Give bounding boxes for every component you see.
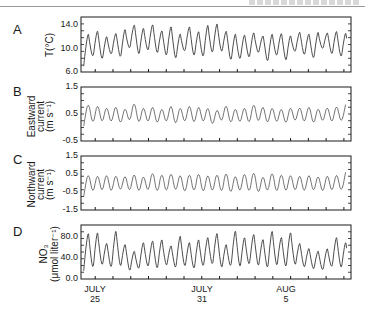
panel-c-plot xyxy=(81,156,351,210)
panel-d-plot xyxy=(81,225,351,279)
panel-b-series xyxy=(84,104,346,126)
panel-b-plot xyxy=(81,87,351,141)
chart-plots xyxy=(0,0,365,319)
panel-a-series xyxy=(84,24,347,66)
panel-a-plot xyxy=(81,17,351,72)
panel-c-series xyxy=(84,172,346,196)
panel-d-series xyxy=(84,231,347,271)
